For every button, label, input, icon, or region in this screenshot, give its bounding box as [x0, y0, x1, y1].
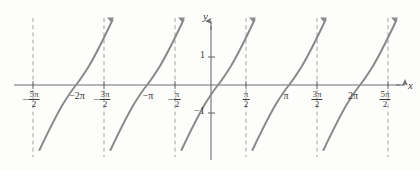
value-text: 2π [75, 90, 85, 101]
value-text: π [283, 90, 288, 101]
fraction: 5π2 [379, 90, 390, 109]
fraction-denominator: 2 [311, 100, 322, 109]
fraction: π2 [174, 90, 181, 109]
fraction: π2 [243, 90, 250, 109]
x-tick-label-pos-2pi: 2π [348, 91, 358, 101]
fraction: 3π2 [311, 90, 322, 109]
y-tick-label-neg-1: −1 [194, 106, 205, 116]
fraction-denominator: 2 [243, 100, 250, 109]
y-axis-label: y [203, 11, 208, 22]
y-tick-label-1: 1 [200, 50, 205, 60]
x-tick-label-pos-3pi-2: 3π2 [311, 90, 322, 109]
x-tick-label-neg-pi: −π [143, 91, 154, 101]
x-tick-label-neg-5pi-2: −5π2 [22, 90, 39, 109]
plot-canvas [0, 0, 420, 171]
fraction-denominator: 2 [29, 100, 40, 109]
value-text: π [148, 90, 153, 101]
x-axis-label: x [408, 80, 413, 91]
fraction-denominator: 2 [379, 100, 390, 109]
fraction: 3π2 [100, 90, 111, 109]
x-tick-label-neg-2pi: −2π [69, 91, 85, 101]
x-tick-label-neg-3pi-2: −3π2 [93, 90, 110, 109]
value-text: 2π [348, 90, 358, 101]
fraction-denominator: 2 [100, 100, 111, 109]
x-tick-label-pos-5pi-2: 5π2 [379, 90, 390, 109]
x-tick-label-pos-pi: π [283, 91, 288, 101]
x-tick-label-pos-pi-2: π2 [243, 90, 250, 109]
tangent-function-plot: y x 1 −1 −5π2 −2π −3π2 −π −π2 π2 π 3π2 2… [0, 0, 420, 171]
fraction: 5π2 [29, 90, 40, 109]
x-tick-label-neg-pi-2: −π2 [168, 90, 181, 109]
fraction-denominator: 2 [174, 100, 181, 109]
